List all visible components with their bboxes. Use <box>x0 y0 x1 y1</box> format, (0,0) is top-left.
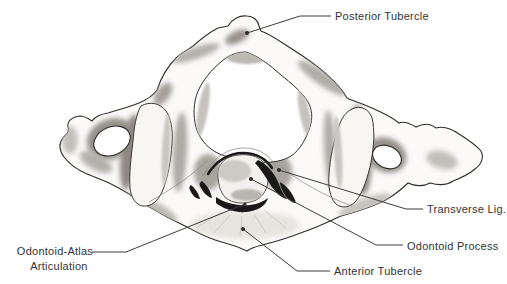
posterior-tubercle-label: Posterior Tubercle <box>335 9 429 24</box>
odontoid-process-label: Odontoid Process <box>407 239 498 254</box>
odontoid-atlas-leader-dot <box>243 202 246 205</box>
odontoid-atlas-articulation-label: Odontoid-Atlas Articulation <box>12 244 98 274</box>
anatomical-figure: Posterior Tubercle Transverse Lig. Odont… <box>0 0 507 284</box>
odontoid-atlas-articulation-label-line2: Articulation <box>30 260 87 272</box>
transverse-lig-leader-dot <box>277 168 281 172</box>
anterior-tubercle-leader-dot <box>241 227 245 231</box>
odontoid-process-leader-dot <box>249 177 253 181</box>
transverse-lig-label: Transverse Lig. <box>427 202 506 217</box>
anterior-tubercle-label: Anterior Tubercle <box>334 264 422 279</box>
odontoid-atlas-articulation-label-line1: Odontoid-Atlas <box>17 245 93 257</box>
posterior-tubercle-leader-dot <box>245 31 249 35</box>
